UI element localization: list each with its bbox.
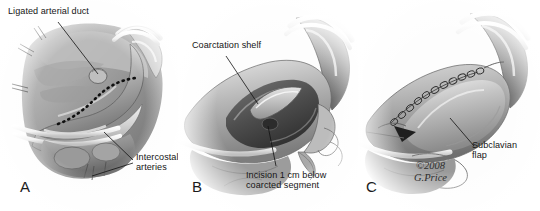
label-intercostal-arteries-line2: arteries xyxy=(136,162,167,173)
panel-b: Coarctation shelf Incision 1 cm below co… xyxy=(178,0,363,211)
copyright-year: ©2008 xyxy=(416,160,445,171)
label-intercostal-arteries-line1: Intercostal xyxy=(136,152,179,163)
label-incision-line2: coarcted segment xyxy=(246,180,319,191)
panel-a: Ligated arterial duct Intercostal arteri… xyxy=(0,0,180,211)
panel-c: Subclavian flap C ©2008 G.Price xyxy=(358,0,540,211)
label-subclavian-flap-line1: Subclavian xyxy=(472,140,517,151)
panel-c-illustration xyxy=(358,0,540,211)
artist-signature: G.Price xyxy=(414,172,447,183)
panel-letter-a: A xyxy=(20,178,30,195)
panel-letter-c: C xyxy=(366,178,377,195)
label-incision-line1: Incision 1 cm below xyxy=(246,170,326,181)
panel-letter-b: B xyxy=(192,178,202,195)
surgical-figure: Ligated arterial duct Intercostal arteri… xyxy=(0,0,540,211)
label-coarctation-shelf: Coarctation shelf xyxy=(192,40,261,51)
label-subclavian-flap-line2: flap xyxy=(472,150,487,161)
label-ligated-arterial-duct: Ligated arterial duct xyxy=(8,6,89,17)
